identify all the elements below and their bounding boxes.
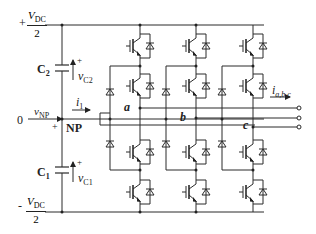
i1-label: i1: [76, 96, 83, 111]
vnp-label: vNP: [34, 106, 49, 120]
capacitor-c2-label: C2: [37, 63, 50, 78]
vc1-plus: +: [77, 158, 82, 167]
dc-bottom-sign: -: [18, 200, 22, 212]
dc-top-label: VDC 2: [27, 10, 47, 39]
dc-bottom-label: VDC 2: [26, 196, 46, 225]
phase-c-label: c: [243, 119, 248, 131]
np-label: NP: [66, 122, 82, 134]
dc-top-sign: +: [19, 17, 26, 29]
vc2-plus: +: [77, 56, 82, 65]
zero-label: 0: [17, 114, 23, 126]
np-plus: +: [52, 122, 58, 132]
output-current-label: ia,b,c: [272, 84, 291, 99]
phase-a-label: a: [124, 101, 130, 113]
capacitor-c1-label: C1: [37, 166, 50, 181]
phase-b-label: b: [180, 111, 186, 123]
vc2-label: vC2: [78, 70, 93, 85]
vc1-label: vC1: [78, 172, 93, 187]
